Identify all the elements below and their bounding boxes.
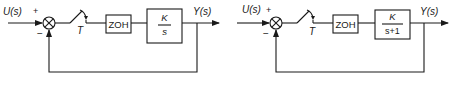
- diagram-1: U(s) + − T ZOH K s Y(s): [3, 6, 219, 72]
- sampler-label: T: [77, 25, 84, 36]
- plant-numerator: K: [161, 12, 168, 23]
- output-label: Y(s): [193, 6, 211, 17]
- plant-denominator: s: [162, 26, 167, 37]
- plant-denominator: s+1: [385, 26, 400, 36]
- plant-numerator: K: [389, 11, 396, 22]
- input-label: U(s): [3, 6, 22, 17]
- minus-sign: −: [263, 28, 269, 39]
- summing-junction: [270, 17, 282, 29]
- output-label: Y(s): [420, 6, 438, 17]
- plus-sign: +: [266, 5, 271, 15]
- diagram-2: U(s) + − T ZOH K s+1 Y(s): [237, 4, 448, 72]
- plus-sign: +: [33, 6, 38, 16]
- sampler-switch-icon: [70, 10, 88, 23]
- block-diagrams: U(s) + − T ZOH K s Y(s) U(s) +: [0, 0, 449, 85]
- minus-sign: −: [37, 28, 43, 39]
- sampler-label: T: [309, 26, 316, 37]
- sampler-switch-icon: [297, 10, 315, 23]
- zoh-label: ZOH: [335, 19, 355, 30]
- zoh-label: ZOH: [108, 19, 128, 30]
- input-label: U(s): [242, 4, 261, 15]
- summing-junction: [43, 17, 55, 29]
